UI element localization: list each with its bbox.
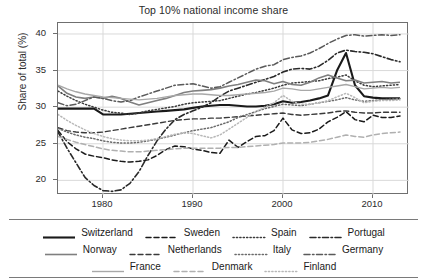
legend-item-germany[interactable]: Germany [303, 244, 383, 255]
legend-item-portugal[interactable]: Portugal [309, 227, 385, 238]
legend-item-norway[interactable]: Norway [44, 244, 117, 255]
legend-item-france[interactable]: France [91, 261, 161, 272]
legend-item-sweden[interactable]: Sweden [145, 227, 220, 238]
legend-swatch-icon [91, 262, 125, 271]
y-tick-label: 20 [26, 173, 46, 184]
x-tick-label: 2000 [262, 198, 302, 209]
legend-divider-bottom [9, 277, 418, 278]
legend-label: France [130, 261, 161, 272]
series-line-denmark [58, 132, 400, 152]
plot-area [57, 22, 408, 194]
legend-row: NorwayNetherlandsItalyGermany [0, 241, 427, 258]
legend-swatch-icon [232, 228, 266, 237]
legend-swatch-icon [42, 228, 76, 237]
series-line-sweden [58, 112, 400, 163]
chart-figure: Top 10% national income share Share of t… [0, 0, 427, 279]
legend-swatch-icon [309, 228, 343, 237]
legend-swatch-icon [129, 245, 163, 254]
legend-swatch-icon [234, 245, 268, 254]
legend-label: Germany [342, 244, 383, 255]
series-line-france [58, 84, 400, 99]
legend-row: SwitzerlandSwedenSpainPortugal [0, 224, 427, 241]
chart-legend: SwitzerlandSwedenSpainPortugalNorwayNeth… [0, 224, 427, 275]
legend-item-switzerland[interactable]: Switzerland [42, 227, 133, 238]
y-tick-label: 35 [26, 64, 46, 75]
legend-swatch-icon [303, 245, 337, 254]
series-line-portugal [58, 50, 400, 191]
legend-item-finland[interactable]: Finland [264, 261, 336, 272]
legend-label: Sweden [184, 227, 220, 238]
legend-swatch-icon [44, 245, 78, 254]
legend-item-italy[interactable]: Italy [234, 244, 291, 255]
legend-row: FranceDenmarkFinland [0, 258, 427, 275]
x-tick-label: 2010 [352, 198, 392, 209]
series-line-switzerland [58, 53, 400, 114]
legend-item-netherlands[interactable]: Netherlands [129, 244, 222, 255]
legend-item-denmark[interactable]: Denmark [173, 261, 253, 272]
y-tick-label: 30 [26, 100, 46, 111]
y-tick-label: 40 [26, 27, 46, 38]
legend-swatch-icon [264, 262, 298, 271]
legend-label: Portugal [348, 227, 385, 238]
legend-swatch-icon [145, 228, 179, 237]
legend-label: Spain [271, 227, 297, 238]
legend-divider-top [9, 219, 418, 220]
x-tick-label: 1990 [172, 198, 212, 209]
legend-label: Italy [273, 244, 291, 255]
legend-swatch-icon [173, 262, 207, 271]
legend-item-spain[interactable]: Spain [232, 227, 297, 238]
legend-label: Switzerland [81, 227, 133, 238]
x-tick-label: 1980 [82, 198, 122, 209]
legend-label: Norway [83, 244, 117, 255]
chart-title: Top 10% national income share [0, 4, 427, 16]
legend-label: Finland [303, 261, 336, 272]
y-tick-label: 25 [26, 137, 46, 148]
plot-lines [58, 23, 409, 195]
legend-label: Denmark [212, 261, 253, 272]
legend-label: Netherlands [168, 244, 222, 255]
